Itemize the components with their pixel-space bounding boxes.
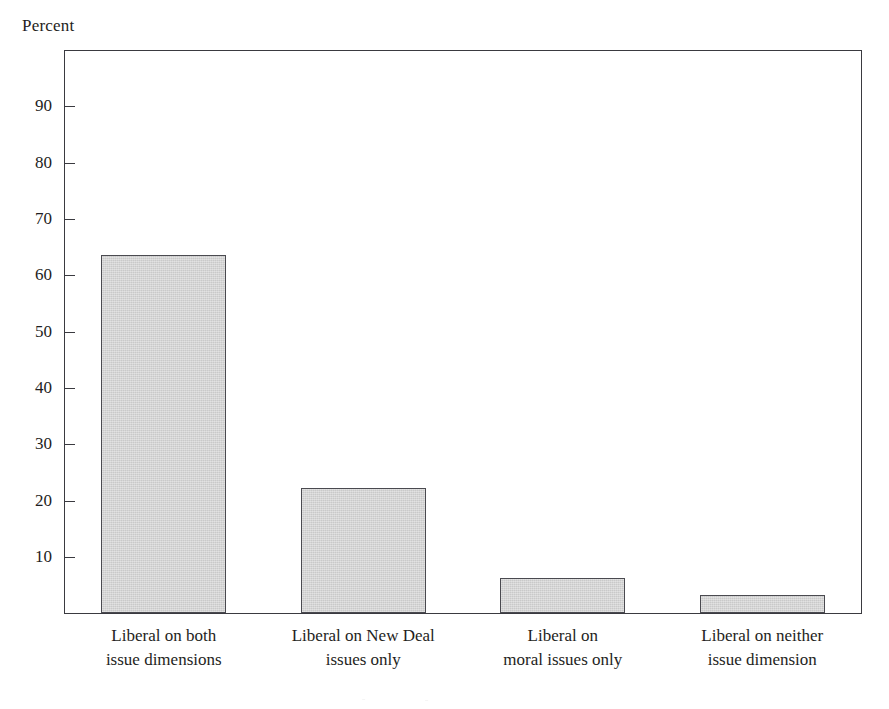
- y-axis-tick-label-40: 40: [8, 379, 52, 396]
- category-label-4: Liberal on neitherissue dimension: [666, 624, 860, 672]
- y-axis-tick-label-80: 80: [8, 154, 52, 171]
- y-axis-tick-50: [64, 332, 75, 333]
- y-axis-tick-label-30: 30: [8, 435, 52, 452]
- y-axis-tick-90: [64, 106, 75, 107]
- y-axis-tick-30: [64, 444, 75, 445]
- y-axis-tick-label-70: 70: [8, 210, 52, 227]
- category-label-line: issues only: [267, 648, 461, 672]
- y-axis-tick-label-10: 10: [8, 548, 52, 565]
- category-label-1: Liberal on bothissue dimensions: [67, 624, 261, 672]
- bar-4: [700, 595, 825, 614]
- bar-3: [500, 578, 625, 614]
- y-axis-tick-label-90: 90: [8, 97, 52, 114]
- y-axis-tick-60: [64, 275, 75, 276]
- y-axis-tick-label-20: 20: [8, 492, 52, 509]
- category-label-3: Liberal onmoral issues only: [466, 624, 660, 672]
- page-bleed-artifact: [120, 695, 540, 705]
- category-label-line: Liberal on neither: [666, 624, 860, 648]
- y-axis-tick-label-50: 50: [8, 323, 52, 340]
- bar-chart-figure: Percent 908070605040302010 Liberal on bo…: [0, 0, 889, 709]
- y-axis-tick-label-60: 60: [8, 266, 52, 283]
- category-label-line: Liberal on New Deal: [267, 624, 461, 648]
- y-axis-tick-70: [64, 219, 75, 220]
- category-label-line: moral issues only: [466, 648, 660, 672]
- y-axis-tick-80: [64, 163, 75, 164]
- category-label-line: issue dimensions: [67, 648, 261, 672]
- y-axis-tick-20: [64, 501, 75, 502]
- bar-2: [301, 488, 426, 614]
- category-label-line: Liberal on both: [67, 624, 261, 648]
- category-label-line: Liberal on: [466, 624, 660, 648]
- y-axis-title: Percent: [22, 16, 74, 36]
- category-label-2: Liberal on New Dealissues only: [267, 624, 461, 672]
- category-label-line: issue dimension: [666, 648, 860, 672]
- y-axis-tick-40: [64, 388, 75, 389]
- y-axis-tick-10: [64, 557, 75, 558]
- bar-1: [101, 255, 226, 614]
